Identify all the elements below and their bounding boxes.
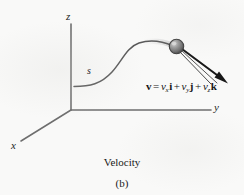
equation-term3-subscript: z — [208, 86, 211, 94]
leader-line-secondary — [181, 50, 217, 83]
figure-part-label: (b) — [0, 178, 244, 189]
particle-highlight — [172, 42, 177, 46]
x-axis-line — [21, 110, 71, 141]
particle-sphere — [169, 39, 183, 53]
equation-term2-subscript: y — [186, 86, 189, 94]
equation-term2-unit: j — [190, 80, 194, 92]
equation-equals: = — [152, 80, 161, 92]
z-axis-label: z — [66, 11, 70, 22]
path-label-s: s — [87, 66, 91, 76]
figure-caption-title: Velocity — [0, 157, 244, 168]
velocity-figure: z y x s v=vxi+vyj+vzk Velocity (b) — [0, 0, 244, 195]
velocity-equation: v=vxi+vyj+vzk — [146, 81, 217, 92]
equation-lhs-vector: v — [146, 80, 152, 92]
equation-term3-unit: k — [211, 80, 217, 92]
equation-term1-subscript: x — [166, 86, 169, 94]
equation-plus-1: + — [172, 80, 181, 92]
equation-plus-2: + — [194, 80, 203, 92]
x-axis-label: x — [11, 140, 16, 151]
y-axis-label: y — [214, 102, 219, 113]
